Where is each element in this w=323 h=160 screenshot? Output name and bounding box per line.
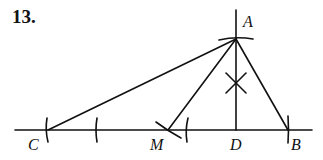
label-M: M xyxy=(149,136,165,153)
segment-AB xyxy=(236,39,288,130)
arc-mark-B xyxy=(288,116,289,143)
label-B: B xyxy=(291,136,301,153)
label-C: C xyxy=(28,136,39,153)
geometry-construction: A C M D B xyxy=(0,0,323,160)
label-A: A xyxy=(242,13,253,30)
label-D: D xyxy=(229,136,242,153)
segment-AM xyxy=(168,39,236,130)
segment-AC xyxy=(48,39,236,130)
